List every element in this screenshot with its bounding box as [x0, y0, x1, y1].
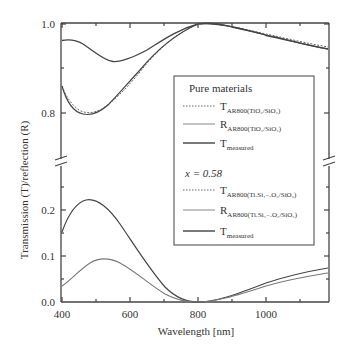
- chart: 1.0 0.8 0.2 0.1 0.0 400 600 800 1000 Wav…: [0, 0, 348, 355]
- x-axis-title: Wavelength [nm]: [158, 325, 234, 337]
- y-tick-0.1: 0.1: [41, 250, 55, 262]
- legend: Pure materials TAR800(TiO₂/SiO₂) RAR800(…: [174, 76, 314, 245]
- legend-group-mixed-title: x = 0.58: [184, 167, 223, 179]
- series-R-mixed: [62, 259, 328, 302]
- series-T-mixed-upper: [62, 23, 328, 61]
- y-tick-0.8: 0.8: [41, 107, 55, 119]
- x-tick-800: 800: [190, 308, 207, 320]
- x-tick-400: 400: [54, 308, 71, 320]
- y-tick-1.0: 1.0: [41, 18, 55, 30]
- x-tick-600: 600: [122, 308, 139, 320]
- y-tick-0.0: 0.0: [41, 296, 55, 308]
- y-axis-title: Transmission (T)/reflection (R): [18, 121, 31, 260]
- x-tick-1000: 1000: [255, 308, 278, 320]
- legend-group-pure-title: Pure materials: [189, 82, 252, 94]
- y-tick-0.2: 0.2: [41, 204, 55, 216]
